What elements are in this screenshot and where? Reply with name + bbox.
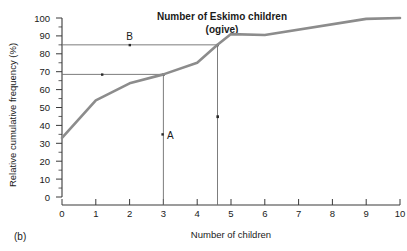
- annotation-label-a: A: [167, 130, 174, 141]
- x-tick-label: 8: [330, 208, 335, 219]
- x-tick-label: 0: [59, 208, 64, 219]
- x-tick-label: 2: [127, 208, 132, 219]
- annotation-label-b: B: [126, 31, 133, 42]
- y-tick-label: 80: [39, 48, 50, 59]
- x-tick-label: 9: [364, 208, 369, 219]
- figure-container: Relative cumulative frequency (%) 100 90…: [0, 0, 407, 251]
- guide-marker-a-mid: [161, 133, 163, 135]
- x-tick-label: 6: [262, 208, 267, 219]
- ogive-chart: Relative cumulative frequency (%) 100 90…: [0, 0, 407, 251]
- y-tick-label: 70: [39, 66, 50, 77]
- guide-marker-b-mid: [216, 115, 219, 118]
- guide-marker-b-left: [129, 44, 131, 46]
- x-tick-label: 7: [296, 208, 301, 219]
- y-tick-label: 40: [39, 120, 50, 131]
- x-tick-label: 10: [395, 208, 406, 219]
- y-tick-label: 0: [45, 192, 50, 203]
- y-axis-title: Relative cumulative frequency (%): [7, 43, 18, 187]
- y-tick-label: 90: [39, 30, 50, 41]
- y-tick-label: 60: [39, 84, 50, 95]
- y-tick-label: 30: [39, 138, 50, 149]
- guide-marker-a-left: [101, 73, 103, 75]
- x-tick-label: 4: [195, 208, 200, 219]
- y-tick-label: 20: [39, 156, 50, 167]
- chart-title: Number of Eskimo children: [157, 11, 287, 22]
- x-tick-label: 3: [161, 208, 166, 219]
- y-tick-label: 10: [39, 174, 50, 185]
- x-axis-title: Number of children: [191, 229, 271, 240]
- x-tick-label: 5: [228, 208, 233, 219]
- y-tick-label: 50: [39, 102, 50, 113]
- x-tick-label: 1: [93, 208, 98, 219]
- y-tick-label: 100: [34, 13, 50, 24]
- panel-label: (b): [14, 231, 26, 242]
